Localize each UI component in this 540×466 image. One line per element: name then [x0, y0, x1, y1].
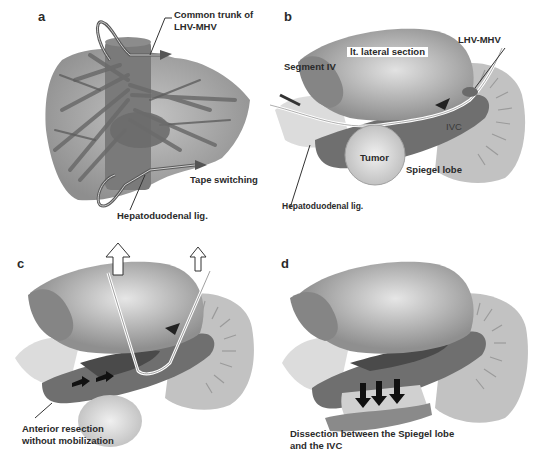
panel-b: b lt. lateral section Segment IV LHV-MHV… — [270, 0, 540, 233]
lhv-mhv-label: LHV-MHV — [458, 35, 501, 45]
ivc-label: IVC — [446, 122, 462, 132]
anterior-resection-caption-line1: Anterior resection — [22, 424, 104, 434]
panel-c: c Anterior resection without mobilizatio… — [0, 233, 270, 466]
tumor-label: Tumor — [360, 153, 389, 163]
hepatoduodenal-label: Hepatoduodenal lig. — [282, 202, 363, 211]
panel-a: a Common trunk of LHV-MHV Tape switching… — [0, 0, 270, 233]
panel-letter-a: a — [38, 10, 45, 24]
panel-letter-d: d — [281, 257, 289, 271]
spiegel-lobe-label: Spiegel lobe — [406, 165, 462, 175]
common-trunk-label: Common trunk of — [174, 10, 253, 20]
panel-letter-b: b — [284, 10, 292, 24]
panel-letter-c: c — [17, 257, 24, 271]
tape-switching-label: Tape switching — [190, 175, 258, 185]
lt-lateral-section-label: lt. lateral section — [347, 47, 428, 57]
segment-iv-label: Segment IV — [284, 62, 336, 72]
liver-vessel-illustration — [0, 0, 270, 233]
panel-d: d Dissection between the Spiegel lobe an… — [270, 233, 540, 466]
dissection-caption-line1: Dissection between the Spiegel lobe — [290, 429, 454, 439]
lhv-mhv-label: LHV-MHV — [174, 22, 217, 32]
dissection-caption-line2: and the IVC — [290, 441, 342, 451]
hepatoduodenal-label: Hepatoduodenal lig. — [117, 211, 208, 221]
anterior-resection-caption-line2: without mobilization — [22, 436, 114, 446]
